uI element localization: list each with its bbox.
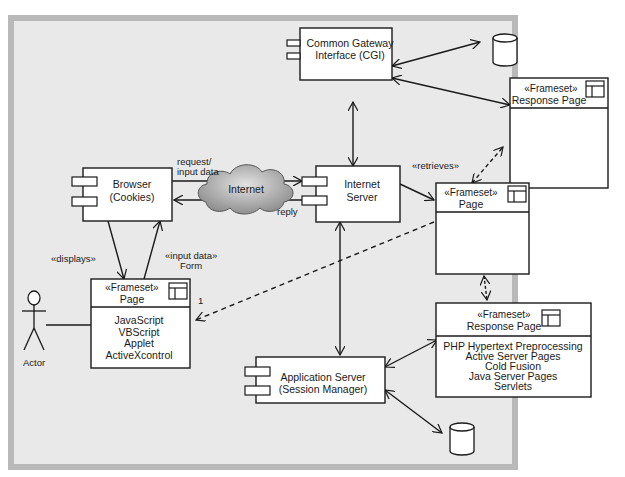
- response-bottom-item: Servlets: [494, 380, 532, 392]
- page-client-stereotype: «Frameset»: [105, 282, 159, 293]
- web-architecture-diagram: Common Gateway Interface (CGI) «Frameset…: [0, 0, 625, 477]
- app-server-line1: Application Server: [280, 371, 366, 383]
- response-bottom-name: Response Page: [467, 320, 542, 332]
- node-page-client[interactable]: «Frameset» Page JavaScript VBScript Appl…: [91, 279, 190, 368]
- cgi-line1: Common Gateway: [307, 37, 395, 49]
- cgi-line2: Interface (CGI): [315, 49, 384, 61]
- response-top-stereotype: «Frameset»: [524, 83, 578, 94]
- node-app-server[interactable]: Application Server (Session Manager): [245, 357, 385, 403]
- database-top[interactable]: [493, 34, 517, 66]
- component-icon: [245, 386, 270, 395]
- frameset-icon: [586, 81, 604, 97]
- page-client-name: Page: [120, 293, 145, 305]
- page-client-item: Applet: [124, 337, 154, 349]
- component-icon: [287, 53, 300, 59]
- component-icon: [245, 367, 270, 376]
- edge-label-retrieves: «retrieves»: [412, 160, 459, 171]
- edge-label-multiplicity: 1: [198, 295, 203, 306]
- page-client-item: ActiveXcontrol: [105, 349, 172, 361]
- app-server-line2: (Session Manager): [279, 383, 368, 395]
- database-bottom[interactable]: [450, 423, 474, 455]
- component-icon: [302, 196, 327, 205]
- internet-label: Internet: [228, 183, 264, 195]
- node-page-mid[interactable]: «Frameset» Page: [436, 183, 529, 274]
- edge-label-request-2: input data: [177, 166, 219, 177]
- frameset-icon: [542, 310, 560, 326]
- browser-line1: Browser: [113, 178, 152, 190]
- server-line1: Internet: [344, 178, 380, 190]
- page-client-item: JavaScript: [114, 314, 163, 326]
- edge-label-input-2: Form: [180, 260, 202, 271]
- node-browser[interactable]: Browser (Cookies): [72, 168, 172, 221]
- actor-label: Actor: [23, 357, 45, 368]
- component-icon: [302, 177, 327, 186]
- node-cgi[interactable]: Common Gateway Interface (CGI): [287, 28, 394, 80]
- node-internet-server[interactable]: Internet Server: [302, 166, 400, 222]
- component-icon: [72, 197, 97, 206]
- response-top-name: Response Page: [512, 94, 587, 106]
- browser-line2: (Cookies): [110, 191, 155, 203]
- frameset-icon: [508, 186, 526, 202]
- edge-label-reply: reply: [277, 206, 298, 217]
- node-response-page-top[interactable]: «Frameset» Response Page: [510, 78, 608, 188]
- component-icon: [72, 177, 97, 186]
- edge-label-displays: «displays»: [51, 253, 96, 264]
- page-mid-name: Page: [459, 198, 484, 210]
- server-line2: Server: [347, 191, 378, 203]
- response-bottom-stereotype: «Frameset»: [477, 309, 531, 320]
- frameset-icon: [169, 283, 187, 299]
- page-mid-stereotype: «Frameset»: [444, 187, 498, 198]
- component-icon: [287, 40, 300, 46]
- node-response-page-bottom[interactable]: «Frameset» Response Page PHP Hypertext P…: [436, 303, 591, 397]
